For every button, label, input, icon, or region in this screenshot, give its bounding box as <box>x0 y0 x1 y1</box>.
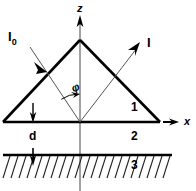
incident-ray-label: I0 <box>8 28 17 47</box>
region-1-label: 1 <box>131 101 138 113</box>
x-axis <box>3 119 179 126</box>
z-axis-label: z <box>77 3 83 14</box>
gap-arrow-lower <box>30 148 36 166</box>
outgoing-ray-line <box>80 48 137 122</box>
prism-left-edge <box>3 40 80 122</box>
outgoing-ray-arrowhead <box>128 42 140 56</box>
optics-prism-figure: z x I0 I φ 1 2 3 d <box>0 0 196 191</box>
substrate-hatching <box>3 156 170 178</box>
x-axis-label: x <box>184 116 190 127</box>
diagram-canvas <box>0 0 196 191</box>
incident-ray-arrowhead <box>34 62 47 74</box>
gap-thickness-label: d <box>29 130 36 142</box>
incident-ray-subscript: 0 <box>12 37 17 47</box>
gap-arrow-upper <box>30 103 36 123</box>
prism-right-edge <box>80 40 160 122</box>
outgoing-ray-label: I <box>147 36 151 49</box>
region-2-label: 2 <box>131 130 138 142</box>
region-3-label: 3 <box>131 159 138 171</box>
